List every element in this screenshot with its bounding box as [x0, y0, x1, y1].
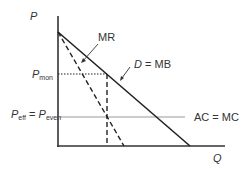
p-eff-equals: =	[26, 108, 39, 120]
p-eff-label: Peff = Peven	[11, 108, 61, 121]
demand-label: D = MB	[134, 58, 171, 70]
demand-label-d: D	[134, 58, 142, 70]
monopoly-diagram: P Q MR D = MB AC = MC Pmon Peff = Peven	[0, 0, 245, 170]
y-axis-label: P	[30, 10, 38, 22]
demand-curve	[58, 32, 190, 146]
p-even-sub: even	[46, 114, 61, 121]
mr-pointer	[83, 44, 98, 61]
p-mon-sub: mon	[39, 74, 53, 81]
p-mon-label: Pmon	[32, 68, 53, 81]
x-axis-label: Q	[213, 152, 222, 164]
ac-mc-label: AC = MC	[194, 111, 239, 123]
mr-label: MR	[98, 31, 115, 43]
p-eff-sub: eff	[18, 114, 26, 121]
demand-label-rest: = MB	[142, 58, 171, 70]
demand-pointer	[122, 67, 130, 78]
mr-curve	[58, 32, 124, 146]
